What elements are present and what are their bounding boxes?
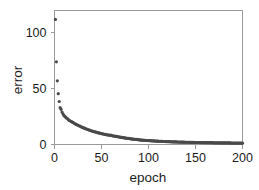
y-tick-label: 50 — [33, 82, 47, 96]
x-tick-label: 0 — [51, 151, 58, 165]
x-axis-title: epoch — [130, 170, 167, 185]
data-point — [55, 60, 58, 63]
y-tick-label: 0 — [40, 138, 47, 152]
data-point — [56, 79, 59, 82]
data-point — [241, 142, 244, 145]
data-point — [59, 108, 62, 111]
data-point — [54, 18, 57, 21]
x-tick-label: 100 — [138, 151, 159, 165]
y-tick-label: 100 — [26, 26, 47, 40]
data-point — [57, 92, 60, 95]
data-point — [58, 100, 61, 103]
x-tick-label: 150 — [185, 151, 206, 165]
y-axis-title: error — [10, 65, 25, 94]
x-tick-label: 50 — [95, 151, 109, 165]
x-tick-label: 200 — [232, 151, 253, 165]
scatter-plot: 050100150200 050100 epoch error — [0, 0, 259, 190]
chart-figure: 050100150200 050100 epoch error — [0, 0, 259, 190]
